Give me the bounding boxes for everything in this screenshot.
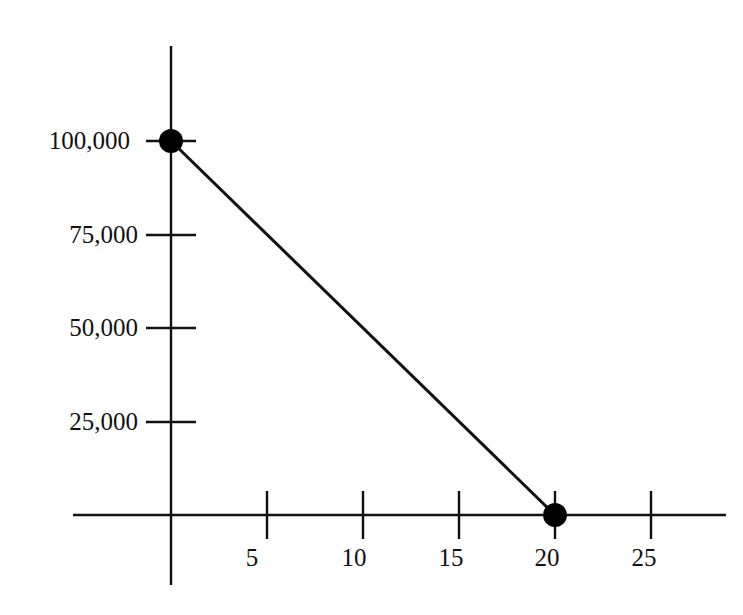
x-tick-label: 15	[439, 544, 464, 571]
x-tick-labels: 5 10 15 20 25	[246, 544, 657, 571]
data-point-marker	[159, 129, 183, 153]
y-tick-label: 100,000	[49, 127, 130, 154]
data-line	[171, 141, 555, 515]
x-tick-label: 20	[535, 544, 560, 571]
x-tick-label: 10	[342, 544, 367, 571]
y-tick-label: 25,000	[69, 408, 138, 435]
y-tick-label: 50,000	[69, 314, 138, 341]
line-chart: 100,000 75,000 50,000 25,000 5 10 15 20 …	[0, 0, 743, 615]
y-tick-labels: 100,000 75,000 50,000 25,000	[49, 127, 138, 435]
data-point-marker	[543, 503, 567, 527]
y-tick-label: 75,000	[69, 221, 138, 248]
x-tick-label: 25	[632, 544, 657, 571]
x-tick-label: 5	[246, 544, 259, 571]
